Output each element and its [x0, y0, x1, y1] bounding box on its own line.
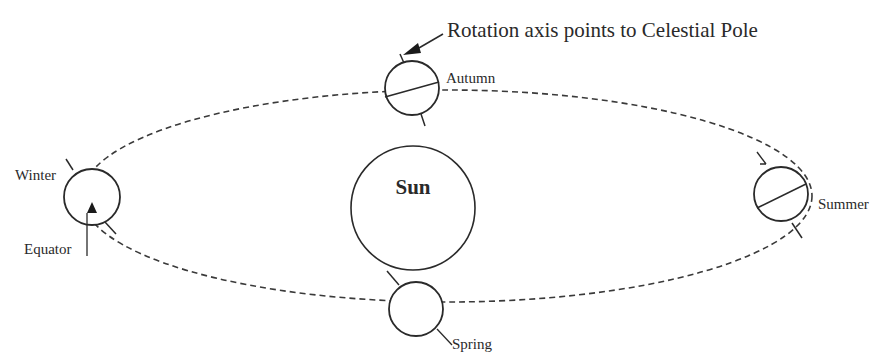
rotation-axis-south — [421, 114, 425, 126]
equator-label: Equator — [24, 241, 71, 257]
earth-summer: Summer — [754, 167, 869, 238]
spring-pointer — [437, 329, 452, 345]
orbit-diagram: Sun Autumn Rotation axis points to Celes… — [0, 0, 894, 363]
orbit-direction-arrow — [757, 152, 766, 164]
season-label-summer: Summer — [818, 196, 869, 212]
rotation-axis-north — [387, 271, 399, 285]
sun: Sun — [351, 146, 475, 270]
earth-winter: Winter Equator — [15, 159, 120, 257]
earth-autumn: Autumn — [385, 54, 496, 126]
season-label-autumn: Autumn — [446, 70, 496, 86]
season-label-winter: Winter — [15, 167, 56, 183]
rotation-axis-south — [105, 222, 116, 234]
season-label-spring: Spring — [452, 336, 493, 352]
sun-label: Sun — [395, 175, 430, 199]
earth-spring: Spring — [387, 271, 493, 352]
rotation-axis-north — [66, 159, 73, 170]
arrowhead-icon — [403, 43, 421, 55]
annotation-text: Rotation axis points to Celestial Pole — [447, 18, 758, 42]
celestial-pole-annotation: Rotation axis points to Celestial Pole — [403, 18, 758, 55]
